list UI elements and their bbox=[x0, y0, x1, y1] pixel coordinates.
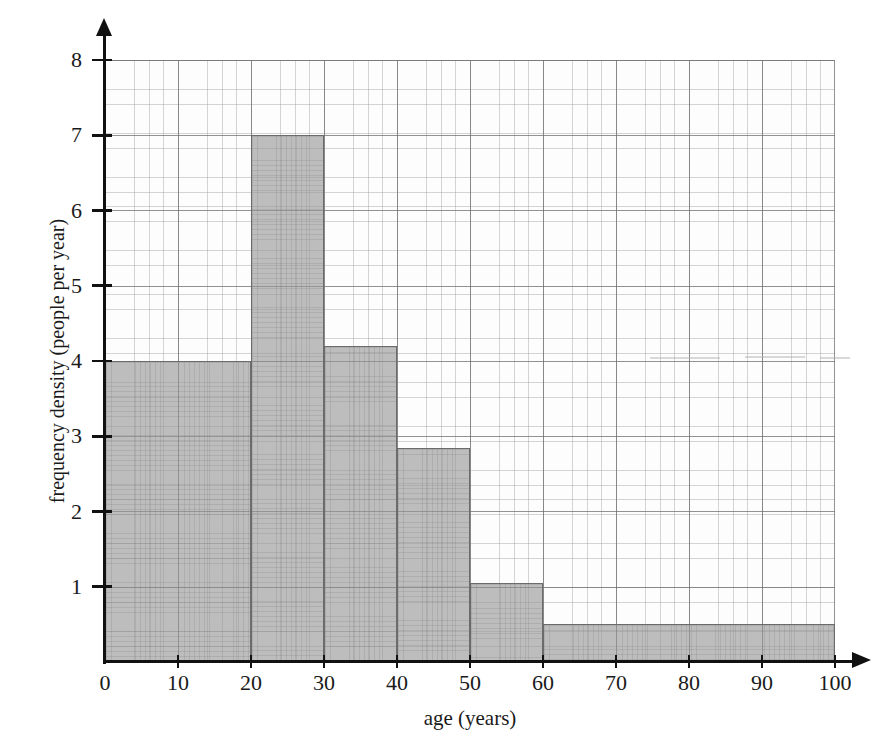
x-axis-arrow-icon bbox=[852, 652, 871, 668]
x-tick-mark bbox=[396, 655, 398, 668]
x-tick-mark bbox=[469, 655, 471, 668]
bar-texture bbox=[325, 347, 396, 661]
x-tick-mark bbox=[615, 655, 617, 668]
plot-area bbox=[105, 60, 835, 662]
x-tick-mark bbox=[834, 655, 836, 668]
histogram-bar bbox=[251, 135, 324, 662]
x-tick-label: 40 bbox=[367, 672, 427, 694]
bar-texture bbox=[398, 449, 469, 661]
x-tick-label: 10 bbox=[148, 672, 208, 694]
y-tick-mark bbox=[92, 510, 112, 513]
y-tick-mark bbox=[92, 435, 112, 438]
histogram-bar bbox=[470, 583, 543, 662]
y-axis-arrow-icon bbox=[96, 18, 112, 36]
bar-texture bbox=[252, 136, 323, 661]
x-tick-label: 30 bbox=[294, 672, 354, 694]
x-tick-label: 70 bbox=[586, 672, 646, 694]
x-tick-label: 20 bbox=[221, 672, 281, 694]
y-tick-mark bbox=[92, 59, 112, 62]
histogram-figure: 12345678 0102030405060708090100 frequenc… bbox=[0, 0, 892, 746]
scan-artifact bbox=[820, 357, 850, 359]
x-tick-mark bbox=[542, 655, 544, 668]
y-tick-mark bbox=[92, 284, 112, 287]
histogram-bar bbox=[105, 361, 251, 662]
y-tick-mark bbox=[92, 209, 112, 212]
bar-texture bbox=[106, 362, 250, 661]
y-axis-title: frequency density (people per year) bbox=[46, 60, 69, 662]
x-axis-line bbox=[105, 660, 857, 663]
x-tick-label: 50 bbox=[440, 672, 500, 694]
x-tick-label: 90 bbox=[732, 672, 792, 694]
y-tick-mark bbox=[92, 134, 112, 137]
x-tick-label: 0 bbox=[75, 672, 135, 694]
x-tick-label: 80 bbox=[659, 672, 719, 694]
histogram-bar bbox=[397, 448, 470, 662]
x-axis-title: age (years) bbox=[105, 706, 835, 731]
y-tick-mark bbox=[92, 360, 112, 363]
x-tick-mark bbox=[250, 655, 252, 668]
y-tick-mark bbox=[92, 585, 112, 588]
bar-texture bbox=[471, 584, 542, 661]
x-tick-mark bbox=[177, 655, 179, 668]
x-tick-mark bbox=[761, 655, 763, 668]
x-tick-mark bbox=[688, 655, 690, 668]
scan-artifact bbox=[650, 357, 720, 359]
x-tick-mark bbox=[323, 655, 325, 668]
x-tick-label: 100 bbox=[805, 672, 865, 694]
y-axis-line bbox=[103, 32, 106, 664]
bar-series bbox=[105, 60, 835, 662]
x-tick-label: 60 bbox=[513, 672, 573, 694]
scan-artifact bbox=[745, 356, 805, 358]
histogram-bar bbox=[324, 346, 397, 662]
